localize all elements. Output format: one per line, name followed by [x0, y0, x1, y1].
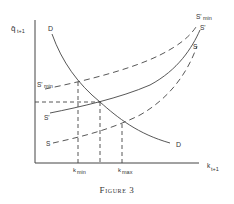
curve-s-prime	[50, 30, 200, 113]
y-axis-label-sub: t+1	[17, 28, 25, 34]
curve-s-prime-min-label-right-sub: min	[203, 15, 212, 21]
figure-3: q̂ t+1 k t+1 D D S' min S' min S' S' S S…	[0, 0, 234, 204]
curve-s-prime-min	[45, 27, 196, 89]
curve-s-prime-min-label-left: S'	[37, 81, 43, 88]
curve-s-prime-label-right: S'	[200, 24, 206, 31]
y-axis-label: q̂	[11, 24, 16, 33]
curve-s-label-left: S	[46, 140, 51, 147]
curve-d-label-top: D	[48, 25, 53, 32]
curve-s-prime-min-label-left-sub: min	[44, 83, 53, 89]
curve-d-label-bottom: D	[176, 141, 181, 148]
k-max-label-sub: max	[122, 169, 133, 175]
figure-caption: Figure 3	[0, 185, 234, 195]
k-min-label-sub: min	[77, 169, 86, 175]
diagram-canvas: q̂ t+1 k t+1 D D S' min S' min S' S' S S…	[0, 0, 234, 204]
x-axis-label-sub: t+1	[211, 166, 219, 172]
curve-s-label-right: S	[193, 43, 198, 50]
curve-d	[52, 34, 170, 143]
curve-s-prime-min-label-right: S'	[196, 13, 202, 20]
curve-s-prime-label-left: S'	[44, 114, 50, 121]
